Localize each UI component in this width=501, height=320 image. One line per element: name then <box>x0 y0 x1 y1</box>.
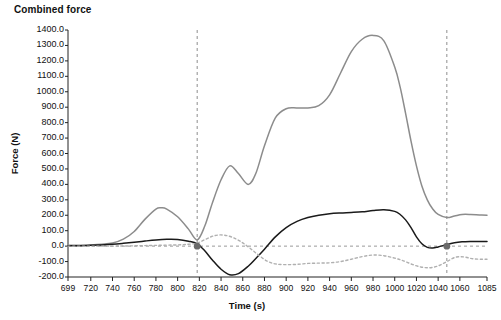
marker-point-left[interactable] <box>194 243 201 250</box>
x-axis-label: Time (s) <box>0 300 494 311</box>
combined-force-black <box>68 210 487 275</box>
combined-force-dotted <box>68 235 487 268</box>
combined-force-gray <box>68 35 487 245</box>
marker-point-right[interactable] <box>443 243 450 250</box>
